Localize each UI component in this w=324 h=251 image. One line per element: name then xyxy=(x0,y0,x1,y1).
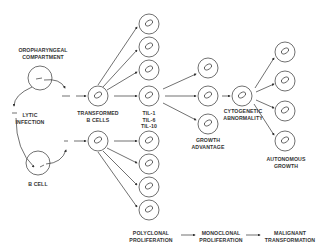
label-transformed: TRANSFORMEDB CELLS xyxy=(77,110,118,123)
label-autonomous: AUTONOMOUSGROWTH xyxy=(267,156,306,169)
label-cytogenetic: CYTOGENETICABNORMALITY xyxy=(223,108,262,121)
label-b-cell: B CELL xyxy=(28,181,47,188)
label-stage-malignant: MALIGNANTTRANSFORMATION xyxy=(265,230,315,243)
label-stage-monoclonal: MONOCLONALPROLIFERATION xyxy=(199,230,242,243)
label-oropharyngeal: OROPHARYNGEALCOMPARTMENT xyxy=(18,47,67,60)
label-growth-advantage: GROWTHADVANTAGE xyxy=(192,137,225,150)
b-cell xyxy=(26,151,50,175)
label-cytokines: TIL-1TIL-6TIL-10 xyxy=(141,110,157,130)
label-stage-polyclonal: POLYCLONALPROLIFERATION xyxy=(129,230,172,243)
label-lytic-infection: LYTICINFECTION xyxy=(16,112,45,125)
diagram-canvas xyxy=(0,0,324,251)
